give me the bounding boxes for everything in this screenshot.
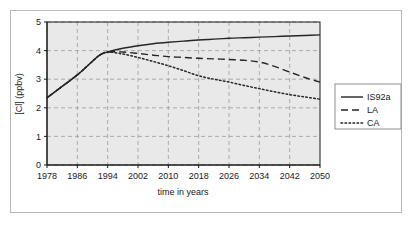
y-tick-label: 2 bbox=[36, 103, 41, 113]
x-axis-tick-labels: 1978198619942002201020182026203420422050 bbox=[37, 171, 330, 181]
x-axis-title: time in years bbox=[157, 187, 209, 197]
plot-area-background bbox=[47, 22, 320, 165]
y-tick-label: 1 bbox=[36, 132, 41, 142]
chart-canvas: 012345 197819861994200220102018202620342… bbox=[0, 0, 412, 226]
x-tick-label: 2010 bbox=[158, 171, 178, 181]
y-tick-label: 4 bbox=[36, 46, 41, 56]
legend-label-is92a: IS92a bbox=[367, 92, 391, 102]
x-tick-label: 1986 bbox=[67, 171, 87, 181]
legend-label-la: LA bbox=[367, 105, 378, 115]
y-tick-label: 5 bbox=[36, 17, 41, 27]
x-tick-label: 1978 bbox=[37, 171, 57, 181]
y-tick-label: 0 bbox=[36, 160, 41, 170]
x-tick-label: 2018 bbox=[189, 171, 209, 181]
y-axis-tick-labels: 012345 bbox=[36, 17, 41, 170]
legend-label-ca: CA bbox=[367, 118, 380, 128]
x-tick-label: 2034 bbox=[249, 171, 269, 181]
y-axis-title: [Cl] (ppbv) bbox=[14, 73, 24, 115]
x-tick-label: 1994 bbox=[98, 171, 118, 181]
x-tick-label: 2042 bbox=[280, 171, 300, 181]
x-tick-label: 2050 bbox=[310, 171, 330, 181]
x-tick-label: 2026 bbox=[219, 171, 239, 181]
x-tick-label: 2002 bbox=[128, 171, 148, 181]
y-tick-label: 3 bbox=[36, 74, 41, 84]
